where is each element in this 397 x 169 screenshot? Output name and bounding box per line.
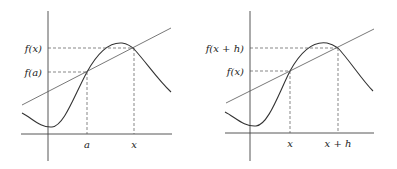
right-figure: f(x + h) f(x) x x + h	[205, 11, 374, 161]
label-x: x	[287, 138, 293, 149]
diagram-canvas: f(x) f(a) a x f(x + h) f(x) x x + h	[0, 0, 397, 169]
function-curve	[22, 43, 171, 127]
secant-line	[226, 29, 374, 103]
label-fx: f(x)	[24, 43, 42, 54]
label-fxh: f(x + h)	[205, 43, 244, 54]
label-fa: f(a)	[24, 67, 43, 78]
label-fx: f(x)	[226, 66, 244, 77]
function-curve	[225, 43, 373, 126]
left-figure: f(x) f(a) a x	[21, 11, 172, 161]
label-a: a	[84, 139, 90, 150]
label-x: x	[131, 139, 137, 150]
label-xh: x + h	[325, 138, 352, 149]
